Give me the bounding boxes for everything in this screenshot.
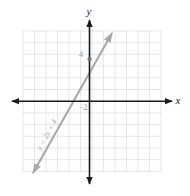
- y-intercept-point: [87, 57, 91, 61]
- x-intercept-label: −2: [79, 103, 88, 112]
- y-axis-label: y: [86, 5, 92, 17]
- y-intercept-label: 4: [79, 50, 83, 59]
- plotted-line: [33, 33, 112, 173]
- coordinate-plane-figure: x y 4 −2 y = 2x + 4: [0, 0, 190, 196]
- graph-canvas: x y 4 −2 y = 2x + 4: [0, 0, 190, 196]
- x-axis-label: x: [175, 94, 181, 106]
